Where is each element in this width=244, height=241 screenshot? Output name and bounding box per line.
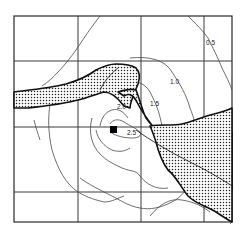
contour-label-1.5: 1.5 [150,100,159,107]
contour-label-2.0: 2.0 [117,103,126,110]
contour-2.0-lower [96,130,130,151]
contour-label-2.5: 2.5 [127,129,136,136]
contour-label-1.0: 1.0 [170,78,179,85]
contour-left-upper [34,120,40,140]
band-left-arm [14,64,139,108]
contour-2.0 [100,109,128,126]
contour-label-0.5: 0.5 [206,39,215,46]
source-marker [110,126,117,133]
contour-outer-bottom [52,150,124,202]
contour-0.5 [188,16,232,90]
stippled-band [14,64,232,222]
contour-map: 0.5 1.0 1.5 2.0 2.5 [0,0,244,241]
